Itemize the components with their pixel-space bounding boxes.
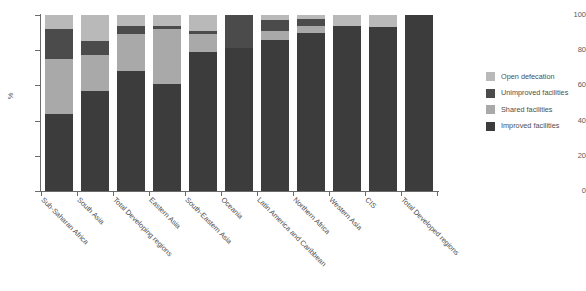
bar-segment — [153, 84, 181, 191]
legend-item: Open defecation — [486, 72, 584, 81]
bar-segment — [261, 40, 289, 191]
bar-segment — [81, 41, 109, 55]
x-tick-mark — [149, 192, 150, 196]
legend-label: Improved facilities — [501, 122, 559, 129]
bar-segment — [225, 48, 253, 191]
bar-segment — [81, 91, 109, 191]
chart-legend: Open defecationUnimproved facilitiesShar… — [486, 72, 584, 138]
bar-segment — [189, 52, 217, 191]
bar-segment — [261, 20, 289, 31]
bar-segment — [45, 59, 73, 114]
bar-segment — [153, 26, 181, 30]
bar-segment — [333, 15, 361, 26]
x-axis-line — [40, 191, 439, 192]
y-tick-mark — [35, 50, 40, 51]
bar-segment — [189, 15, 217, 31]
x-axis-label: Northern Africa — [292, 196, 332, 236]
bar-segment — [189, 34, 217, 52]
bar-segment — [45, 29, 73, 59]
x-tick-mark — [257, 192, 258, 196]
bar-group — [405, 15, 433, 191]
bar-segment — [153, 29, 181, 84]
legend-label: Shared facilities — [501, 106, 553, 113]
bar-segment — [117, 15, 145, 26]
bar-segment — [117, 26, 145, 35]
bar-group — [153, 15, 181, 191]
bar-segment — [261, 15, 289, 20]
bar-segment — [117, 34, 145, 71]
bar-group — [117, 15, 145, 191]
bar-group — [261, 15, 289, 191]
bar-group — [225, 15, 253, 191]
x-axis-label: Total Developed regions — [400, 196, 461, 257]
x-tick-mark — [221, 192, 222, 196]
y-tick-label: 0 — [560, 187, 586, 195]
bar-group — [45, 15, 73, 191]
x-tick-mark — [113, 192, 114, 196]
bar-segment — [333, 26, 361, 191]
bar-segment — [369, 15, 397, 27]
x-axis-label: Oceania — [220, 196, 244, 220]
y-tick-label: 20 — [560, 152, 586, 160]
bar-segment — [297, 26, 325, 33]
bar-segment — [81, 15, 109, 41]
bar-group — [333, 15, 361, 191]
x-axis-label: Western Asia — [328, 196, 363, 231]
y-tick-mark — [35, 156, 40, 157]
plot-area — [41, 15, 437, 191]
bar-segment — [297, 15, 325, 19]
x-tick-mark — [437, 192, 438, 196]
bar-group — [297, 15, 325, 191]
legend-item: Improved facilities — [486, 122, 584, 131]
x-axis-label: South Asia — [76, 196, 106, 226]
bar-group — [81, 15, 109, 191]
x-axis-label: CIS — [364, 196, 378, 210]
stacked-bar-chart: % 020406080100 Sub-Saharan AfricaSouth A… — [0, 0, 586, 291]
legend-item: Unimproved facilities — [486, 89, 584, 98]
bar-segment — [189, 31, 217, 35]
legend-swatch — [486, 105, 495, 114]
y-tick-mark — [35, 121, 40, 122]
bar-segment — [261, 31, 289, 40]
x-axis-label: Eastern Asia — [148, 196, 182, 230]
bar-segment — [405, 15, 433, 191]
x-tick-mark — [185, 192, 186, 196]
legend-swatch — [486, 72, 495, 81]
y-axis-title: % — [6, 93, 15, 100]
x-tick-mark — [401, 192, 402, 196]
bar-segment — [153, 15, 181, 26]
legend-label: Open defecation — [501, 73, 555, 80]
x-tick-mark — [365, 192, 366, 196]
legend-label: Unimproved facilities — [501, 89, 568, 96]
x-tick-mark — [41, 192, 42, 196]
x-axis-label: Latin America and Caribbean — [256, 196, 328, 268]
y-tick-label: 80 — [560, 46, 586, 54]
bar-segment — [117, 71, 145, 191]
y-tick-mark — [35, 191, 40, 192]
x-tick-mark — [329, 192, 330, 196]
bar-segment — [297, 33, 325, 191]
bar-segment — [81, 55, 109, 90]
bar-group — [369, 15, 397, 191]
y-tick-mark — [35, 85, 40, 86]
legend-item: Shared facilities — [486, 105, 584, 114]
bar-segment — [297, 19, 325, 26]
bar-segment — [225, 15, 253, 48]
legend-swatch — [486, 89, 495, 98]
x-tick-mark — [77, 192, 78, 196]
bar-group — [189, 15, 217, 191]
bar-segment — [45, 15, 73, 29]
bar-segment — [45, 114, 73, 191]
y-tick-mark — [35, 15, 40, 16]
x-tick-mark — [293, 192, 294, 196]
legend-swatch — [486, 122, 495, 131]
y-tick-label: 100 — [560, 11, 586, 19]
bar-segment — [369, 27, 397, 191]
